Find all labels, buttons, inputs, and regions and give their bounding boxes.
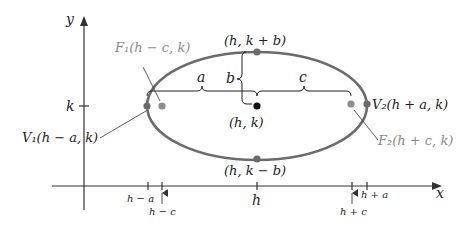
top-covertex-point <box>253 48 260 55</box>
focus-f1-label: F₁(h − c, k) <box>114 40 190 55</box>
bottom-covertex-point <box>253 155 260 162</box>
center-point <box>253 102 260 109</box>
vertex-v1-point <box>143 102 150 109</box>
h-minus-a-label: h − a <box>127 193 154 204</box>
vertex-v2-point <box>363 100 370 107</box>
vertex-v2-label: V₂(h + a, k) <box>372 97 448 112</box>
h-plus-c-label: h + c <box>340 206 367 217</box>
brace-b <box>237 52 252 104</box>
ellipse-diagram: y x k h h − a h − c h + c h + a a b c (h… <box>0 0 468 228</box>
brace-c <box>257 86 351 96</box>
a-label: a <box>197 69 205 85</box>
brace-a <box>147 86 257 96</box>
bottom-covertex-label: (h, k − b) <box>224 163 286 178</box>
focus-f2-label: F₂(h + c, k) <box>377 133 453 148</box>
b-label: b <box>226 70 235 86</box>
k-label: k <box>66 98 74 114</box>
dimension-braces <box>147 52 351 104</box>
h-label: h <box>252 192 261 208</box>
leader-v1 <box>100 111 146 138</box>
focus-f2-point <box>347 100 354 107</box>
vertex-v1-label: V₁(h − a, k) <box>22 130 98 145</box>
focus-f1-point <box>158 102 165 109</box>
h-plus-a-label: h + a <box>361 189 388 200</box>
x-axis-label: x <box>436 185 444 201</box>
center-label: (h, k) <box>229 115 264 130</box>
top-covertex-label: (h, k + b) <box>224 33 286 48</box>
h-minus-c-label: h − c <box>149 206 176 217</box>
y-axis-label: y <box>65 11 75 27</box>
c-label: c <box>299 69 307 85</box>
